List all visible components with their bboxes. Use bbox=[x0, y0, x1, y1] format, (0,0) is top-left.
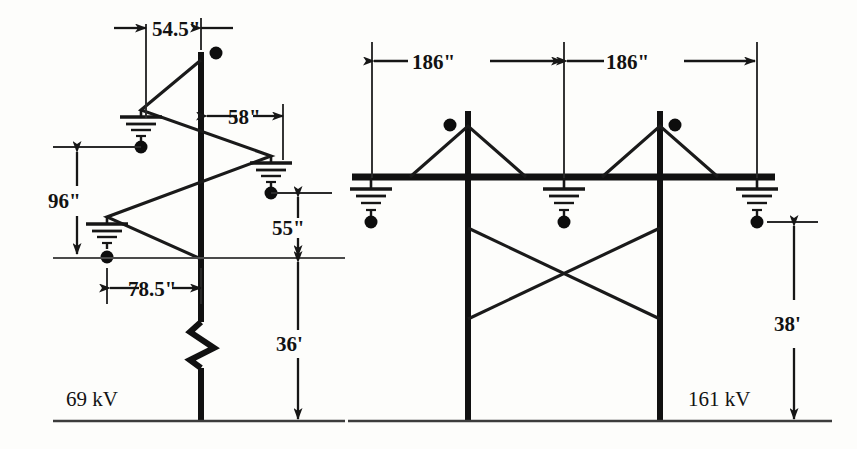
ground-symbol-lower-left bbox=[86, 217, 128, 249]
left-voltage-label: 69 kV bbox=[66, 387, 118, 411]
dim-label-54: 54.5" bbox=[152, 17, 200, 41]
dim-label-186-right: 186" bbox=[606, 50, 649, 74]
dim-label-78: 78.5" bbox=[128, 277, 176, 301]
left-tower-group: 54.5" 58" 96" 78.5" 55" 36' 69 kV bbox=[48, 17, 345, 421]
conductor-dot-top bbox=[210, 47, 223, 60]
dim-label-55: 55" bbox=[272, 216, 305, 240]
right-tower-group: 186" 186" 38' 161 kV bbox=[348, 42, 832, 421]
conductor-dot-left-pole bbox=[444, 119, 457, 132]
dim-label-186-left: 186" bbox=[412, 50, 455, 74]
ground-symbol-right-left bbox=[350, 177, 392, 216]
dim-label-58: 58" bbox=[228, 105, 261, 129]
pole-break-symbol bbox=[190, 322, 214, 368]
tower-configuration-figure: 54.5" 58" 96" 78.5" 55" 36' 69 kV bbox=[0, 0, 857, 449]
figure-canvas: 54.5" 58" 96" 78.5" 55" 36' 69 kV bbox=[0, 0, 857, 449]
conductor-dot-right-center bbox=[558, 216, 571, 229]
conductor-dot-right-right bbox=[751, 216, 764, 229]
dim-label-96: 96" bbox=[48, 189, 81, 213]
dim-label-36: 36' bbox=[276, 332, 303, 356]
dim-label-38: 38' bbox=[774, 312, 801, 336]
ground-symbol-right-center bbox=[543, 177, 585, 216]
conductor-dot-right-pole bbox=[669, 119, 682, 132]
conductor-dot-right-left bbox=[365, 216, 378, 229]
ground-symbol-right-right bbox=[736, 177, 778, 216]
left-conductor-arms bbox=[107, 60, 271, 259]
right-voltage-label: 161 kV bbox=[688, 387, 750, 411]
